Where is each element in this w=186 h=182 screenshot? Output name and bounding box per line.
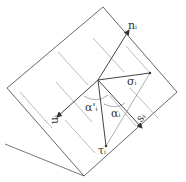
sigma-label: σi — [127, 76, 136, 87]
tau-label: τi — [98, 145, 106, 156]
n-vector — [98, 30, 129, 80]
alpha-prime-arc — [84, 95, 108, 100]
alpha-label: αi — [111, 108, 120, 119]
plane-outline — [7, 7, 177, 176]
stress-vector-diagram: ni ui si σi τi α'i αi — [0, 0, 186, 182]
tau-vector — [98, 80, 106, 146]
alpha-prime-label: α'i — [85, 102, 97, 113]
u-label: ui — [49, 115, 60, 124]
diagram-canvas — [0, 0, 186, 182]
sigma-vector — [98, 73, 150, 80]
plane-hatching — [20, 38, 158, 153]
base-line — [5, 144, 84, 176]
n-label: ni — [128, 20, 137, 31]
